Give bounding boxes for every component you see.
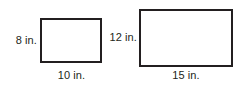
large-rectangle-height-label: 12 in. [104,31,137,44]
small-rectangle-height-label: 8 in. [0,34,37,47]
similar-rectangles-figure: 8 in. 10 in. 12 in. 15 in. [0,0,242,88]
large-rectangle-shape [139,9,233,67]
small-rectangle-shape [40,18,102,63]
large-rectangle-width-label: 15 in. [139,69,233,82]
small-rectangle-width-label: 10 in. [41,69,102,82]
